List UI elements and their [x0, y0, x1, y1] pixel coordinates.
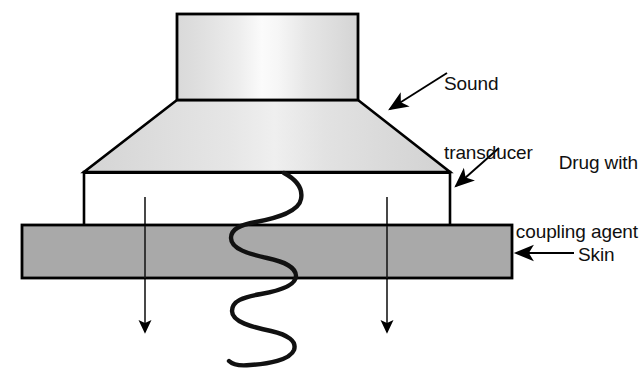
- sound-transducer-leader-arrow: [390, 73, 447, 109]
- diagram-canvas: Sound transducer Drug with coupling agen…: [0, 0, 642, 373]
- label-sound-transducer-line1: Sound: [444, 72, 533, 95]
- transducer-horn-shape: [84, 100, 450, 172]
- label-drug-coupling-line1: Drug with: [438, 151, 638, 174]
- label-drug-coupling-line2: coupling agent: [438, 220, 638, 243]
- transducer-body-shape: [177, 14, 358, 100]
- label-skin: Skin: [578, 243, 615, 266]
